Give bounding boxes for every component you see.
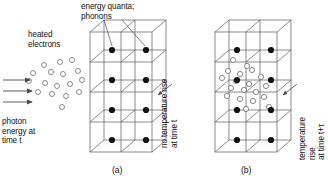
electron-cloud	[27, 58, 85, 110]
atom	[143, 107, 149, 113]
electron	[68, 82, 73, 87]
lattice-panel-b	[215, 20, 291, 152]
caption-panel-b: (b)	[241, 166, 251, 176]
phonon	[249, 67, 254, 72]
leader-line-2	[122, 20, 145, 46]
phonon	[237, 71, 242, 76]
phonon	[224, 93, 229, 98]
leader-lines-quanta	[104, 20, 145, 46]
phonon	[243, 106, 248, 111]
phonon	[237, 96, 242, 101]
electron	[50, 92, 55, 97]
electron	[27, 79, 32, 84]
atom	[234, 137, 240, 143]
atom	[109, 137, 115, 143]
electron	[31, 71, 36, 76]
atom	[268, 47, 274, 53]
electron	[49, 70, 54, 75]
electron	[43, 81, 48, 86]
atom	[143, 47, 149, 53]
lattice-depth-edges-a	[90, 20, 166, 152]
phonon	[263, 83, 268, 88]
atoms-panel-b	[234, 47, 274, 143]
figure-phonon-diagram: energy quanta; phonons heated electrons …	[0, 0, 328, 189]
electron	[55, 84, 60, 89]
electron	[60, 105, 65, 110]
electron	[61, 72, 66, 77]
atom	[268, 137, 274, 143]
atom	[143, 77, 149, 83]
electron	[64, 94, 69, 99]
electron	[76, 69, 81, 74]
leader-line-1	[104, 20, 112, 46]
phonon	[261, 94, 266, 99]
atom	[234, 77, 240, 83]
electron	[80, 78, 85, 83]
electron	[70, 58, 75, 63]
phonon	[253, 89, 258, 94]
electron	[77, 90, 82, 95]
phonon	[258, 74, 263, 79]
phonons-panel-b	[219, 57, 271, 111]
atom	[143, 137, 149, 143]
atoms-panel-a	[109, 47, 149, 143]
label-energy-quanta: energy quanta; phonons	[81, 2, 134, 21]
lattice-depth-edges-b	[215, 20, 291, 152]
label-temperature-rise: temperature rise at time t+τ	[298, 117, 327, 160]
atom	[268, 107, 274, 113]
electron	[42, 63, 47, 68]
phonon	[230, 57, 235, 62]
phonon	[244, 63, 249, 68]
phonon	[219, 75, 224, 80]
pointer-arrow-b	[283, 84, 297, 95]
electron	[36, 90, 41, 95]
phonon	[246, 81, 251, 86]
caption-panel-a: (a)	[112, 166, 122, 176]
phonon	[228, 85, 233, 90]
atom	[109, 77, 115, 83]
atom	[268, 77, 274, 83]
label-no-temperature-rise: no temperature rise at time t	[160, 79, 179, 148]
atom	[234, 47, 240, 53]
atom	[234, 107, 240, 113]
phonon	[225, 68, 230, 73]
label-heated-electrons: heated electrons	[28, 30, 60, 49]
electron	[58, 60, 63, 65]
atom	[109, 47, 115, 53]
phonon	[250, 98, 255, 103]
lattice-panel-a	[90, 20, 166, 152]
phonon	[241, 87, 246, 92]
atom	[109, 107, 115, 113]
label-photon-energy: photon energy at time t	[2, 117, 35, 146]
